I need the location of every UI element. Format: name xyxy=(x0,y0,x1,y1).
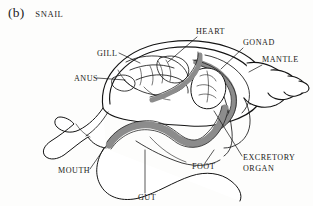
label-foot: FOOT xyxy=(192,162,215,171)
label-gonad: GONAD xyxy=(243,38,275,47)
label-heart: HEART xyxy=(196,27,225,36)
snail-anatomy-diagram: GILL HEART GONAD MANTLE ANUS EXCRETORY O… xyxy=(0,0,313,206)
label-anus: ANUS xyxy=(74,74,98,83)
label-gill: GILL xyxy=(97,49,117,58)
label-gut: GUT xyxy=(138,193,156,202)
label-excretory-organ-line2: ORGAN xyxy=(243,164,274,173)
label-mouth: MOUTH xyxy=(58,166,90,175)
head-and-tentacles-outline xyxy=(43,108,106,159)
label-excretory-organ-line1: EXCRETORY xyxy=(243,153,295,162)
figure-container: (b) SNAIL xyxy=(0,0,313,206)
foot-sole-outline xyxy=(97,148,241,201)
label-mantle: MANTLE xyxy=(262,55,299,64)
